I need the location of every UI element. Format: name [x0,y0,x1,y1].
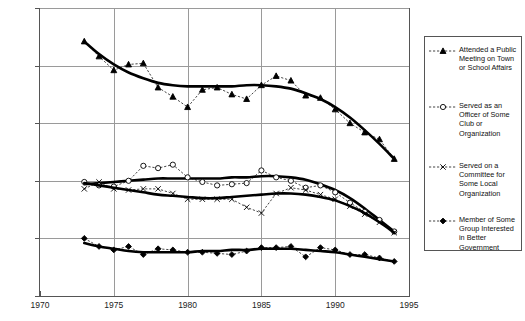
x-tick-label: 1975 [94,300,134,310]
series-trend-curve [84,41,394,159]
legend-box: Attended a Public Meeting on Town or Sch… [424,36,522,251]
data-point-marker-filled-triangle [170,94,176,100]
data-point-marker-filled-triangle [185,104,191,110]
legend-marker-open-circle-icon [428,101,458,113]
data-point-marker-open-circle [170,162,175,167]
data-point-marker-open-circle [259,168,264,173]
data-point-marker-open-circle [215,183,220,188]
data-point-marker-open-circle [244,181,249,186]
data-point-marker-filled-diamond [185,249,191,255]
x-tick-label: 1995 [389,300,429,310]
x-tick-label: 1990 [315,300,355,310]
data-point-marker-filled-triangle [155,84,161,90]
legend-label: Served on a Committee for Some Local Org… [458,161,505,198]
legend-marker-x-mark-icon [428,161,458,173]
data-point-marker-x-mark [155,186,160,191]
data-point-marker-open-circle [229,182,234,187]
data-point-marker-open-circle [126,178,131,183]
data-point-marker-x-mark [288,185,293,190]
data-point-marker-filled-diamond [229,252,235,258]
data-point-marker-filled-triangle [81,38,87,44]
data-point-marker-filled-diamond [347,252,353,258]
data-point-marker-filled-triangle [229,91,235,97]
data-point-marker-open-circle [440,104,445,109]
x-tick-label: 1970 [20,300,60,310]
series-group-0 [81,38,397,161]
data-point-marker-open-circle [333,190,338,195]
data-point-marker-open-circle [318,183,323,188]
data-point-marker-filled-diamond [155,246,161,252]
legend-label: Served as an Officer of Some Club or Org… [458,101,510,138]
legend-label: Member of Some Group Interested in Bette… [458,215,515,252]
chart-canvas: 0%5%10%15%20%25% 19701975198019851990199… [0,0,420,321]
legend-item-0[interactable]: Attended a Public Meeting on Town or Sch… [428,45,520,73]
legend-marker-filled-triangle-icon [428,45,458,57]
plot-right-border [409,8,410,296]
data-point-marker-open-circle [155,166,160,171]
plot-area [40,8,409,296]
series-dotted-line [84,41,394,159]
data-point-marker-filled-diamond [96,244,102,250]
x-tick-label: 1980 [168,300,208,310]
data-point-marker-filled-diamond [81,236,87,242]
data-point-marker-filled-triangle [273,73,279,79]
data-point-marker-open-circle [200,179,205,184]
chart-screenshot: 0%5%10%15%20%25% 19701975198019851990199… [0,0,525,321]
data-point-marker-filled-diamond [440,218,446,224]
data-point-marker-open-circle [141,163,146,168]
series-layer [40,8,409,296]
x-axis-line [39,296,410,297]
data-point-marker-x-mark [82,186,87,191]
data-point-marker-filled-diamond [303,254,309,260]
data-point-marker-x-mark [259,210,264,215]
legend-item-2[interactable]: Served on a Committee for Some Local Org… [428,161,520,198]
data-point-marker-x-mark [244,205,249,210]
data-point-marker-filled-triangle [140,60,146,66]
data-point-marker-open-circle [288,178,293,183]
legend-item-1[interactable]: Served as an Officer of Some Club or Org… [428,101,520,138]
series-group-1 [82,162,397,234]
legend-label: Attended a Public Meeting on Town or Sch… [458,45,516,73]
legend-item-3[interactable]: Member of Some Group Interested in Bette… [428,215,520,252]
series-group-2 [82,179,397,235]
data-point-marker-filled-triangle [377,136,383,142]
data-point-marker-open-circle [274,175,279,180]
x-tick-label: 1985 [241,300,281,310]
data-point-marker-filled-diamond [391,259,397,265]
legend-marker-filled-diamond-icon [428,215,458,227]
data-point-marker-filled-triangle [126,61,132,67]
data-point-marker-filled-diamond [126,244,132,250]
data-point-marker-open-circle [185,175,190,180]
series-group-3 [81,236,397,265]
